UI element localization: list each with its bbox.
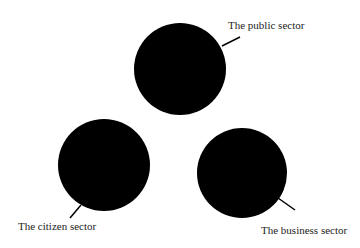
business-sector-circle: [197, 128, 287, 218]
business-sector-leader-line: [278, 198, 295, 210]
citizen-sector-label: The citizen sector: [18, 220, 97, 232]
citizen-sector-circle: [58, 119, 150, 211]
public-sector-label: The public sector: [228, 19, 305, 31]
public-sector-circle: [134, 23, 226, 115]
citizen-sector-leader-line: [70, 205, 81, 218]
public-sector-leader-line: [222, 37, 240, 46]
business-sector-label: The business sector: [261, 224, 347, 236]
three-sector-diagram: The public sector The citizen sector The…: [0, 0, 360, 248]
